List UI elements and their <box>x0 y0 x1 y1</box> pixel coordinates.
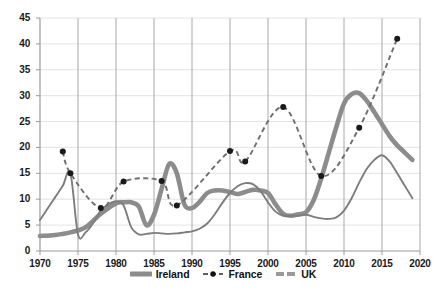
legend-item-ireland[interactable]: Ireland <box>130 268 190 280</box>
data-point-france-2017 <box>394 36 400 42</box>
data-point-france-1997 <box>242 158 248 164</box>
y-tick-40: 40 <box>4 38 30 49</box>
legend-label-uk: UK <box>301 268 316 280</box>
data-point-france-2012 <box>356 125 362 131</box>
data-point-france-1981 <box>121 179 127 185</box>
line-chart: 45 40 35 30 25 20 15 10 5 0 1970 1975 19… <box>0 0 446 295</box>
thick-line-swatch-icon <box>130 268 152 280</box>
data-point-france-2007 <box>318 173 324 179</box>
y-tick-5: 5 <box>4 219 30 230</box>
legend-item-uk[interactable]: UK <box>275 268 316 280</box>
y-tick-45: 45 <box>4 12 30 23</box>
legend-label-france: France <box>228 268 262 280</box>
dashed-line-swatch-icon <box>275 268 297 280</box>
y-tick-35: 35 <box>4 64 30 75</box>
y-tick-25: 25 <box>4 116 30 127</box>
chart-legend: Ireland France UK <box>0 268 446 280</box>
plot-canvas <box>0 0 446 295</box>
legend-item-france[interactable]: France <box>202 268 262 280</box>
y-tick-0: 0 <box>4 245 30 256</box>
y-tick-30: 30 <box>4 90 30 101</box>
data-point-france-1978 <box>98 205 104 211</box>
data-point-france-1986 <box>159 178 165 184</box>
data-point-france-1995 <box>227 148 233 154</box>
y-tick-20: 20 <box>4 141 30 152</box>
data-point-france-1988 <box>174 202 180 208</box>
data-point-france-1973 <box>60 149 66 155</box>
data-point-france-2002 <box>280 104 286 110</box>
y-tick-15: 15 <box>4 167 30 178</box>
data-point-france-1974 <box>67 170 73 176</box>
dashed-marker-swatch-icon <box>202 268 224 280</box>
y-tick-10: 10 <box>4 193 30 204</box>
legend-label-ireland: Ireland <box>156 268 190 280</box>
x-tick-marks <box>40 251 420 255</box>
